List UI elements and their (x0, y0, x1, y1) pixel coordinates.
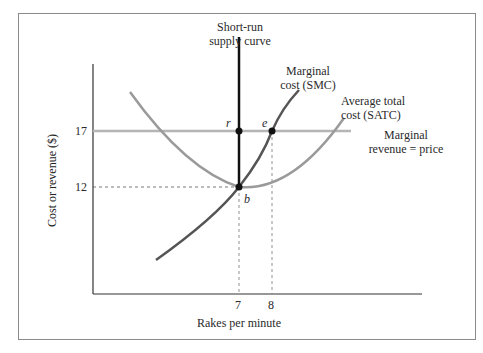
satc-label-line1: Average total (341, 94, 405, 108)
y-tick-12: 12 (75, 180, 87, 194)
point-e (269, 128, 276, 135)
mr-label: Marginal revenue = price (356, 128, 456, 156)
mr-label-line2: revenue = price (356, 142, 456, 156)
smc-label: Marginal cost (SMC) (268, 64, 348, 92)
y-axis-label: Cost or revenue ($) (45, 101, 60, 261)
point-r (236, 128, 243, 135)
x-tick-8: 8 (268, 298, 274, 312)
y-tick-17: 17 (75, 124, 87, 138)
chart-canvas (0, 0, 483, 353)
point-b-label: b (244, 192, 250, 206)
satc-curve (130, 92, 344, 187)
smc-label-line2: cost (SMC) (268, 78, 348, 92)
supply-label-line1: Short-run (200, 20, 280, 34)
x-axis-label: Rakes per minute (184, 316, 294, 330)
satc-label-line2: cost (SATC) (341, 108, 405, 122)
point-r-label: r (226, 116, 231, 130)
satc-label: Average total cost (SATC) (341, 94, 405, 122)
mr-label-line1: Marginal (356, 128, 456, 142)
point-b (236, 184, 243, 191)
x-tick-7: 7 (235, 298, 241, 312)
point-e-label: e (262, 116, 267, 130)
supply-curve-label: Short-run supply curve (200, 20, 280, 48)
supply-label-line2: supply curve (200, 34, 280, 48)
smc-label-line1: Marginal (268, 64, 348, 78)
